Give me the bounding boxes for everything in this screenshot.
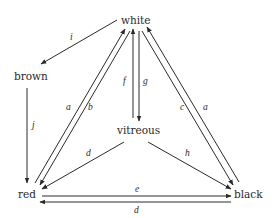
edge-label-f: f (123, 76, 127, 86)
node-black: black (234, 188, 263, 200)
edge-label-e: e (135, 184, 139, 194)
edge-b-arrow (40, 31, 130, 185)
state-diagram: white brown vitreous red black i j a b f… (0, 0, 272, 218)
node-white: white (121, 14, 151, 26)
edge-a-right-arrow (147, 27, 239, 182)
node-vitreous: vitreous (116, 124, 160, 136)
edge-label-c: c (180, 102, 185, 112)
edge-a-left-arrow (35, 29, 125, 183)
edge-i-arrow (41, 20, 117, 64)
node-brown: brown (14, 70, 48, 82)
edge-label-b: b (88, 102, 93, 112)
edge-label-g: g (143, 76, 148, 86)
edge-label-d-bottom: d (134, 205, 139, 215)
edge-label-h: h (185, 148, 190, 158)
edge-label-d-vitreous: d (86, 148, 91, 158)
edge-c-arrow (142, 31, 233, 185)
edge-label-j: j (30, 120, 35, 130)
edge-label-a-right: a (203, 102, 208, 112)
edge-label-i: i (70, 32, 73, 42)
node-red: red (18, 188, 36, 200)
edge-label-a-left: a (66, 102, 71, 112)
